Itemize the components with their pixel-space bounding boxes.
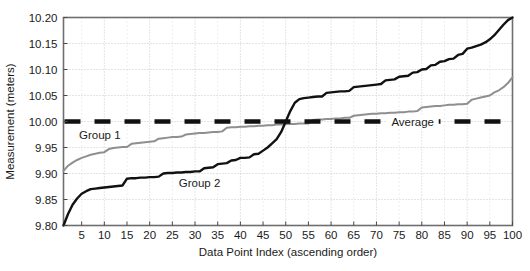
annotation-average: Average bbox=[391, 116, 434, 128]
y-tick-label: 9.80 bbox=[35, 220, 57, 232]
x-tick-label: 35 bbox=[211, 229, 224, 241]
y-tick-label: 10.00 bbox=[29, 116, 58, 128]
x-tick-label: 45 bbox=[257, 229, 270, 241]
y-axis-ticks: 9.809.859.909.9510.0010.0510.1010.1510.2… bbox=[29, 12, 68, 232]
chart-svg: 9.809.859.909.9510.0010.0510.1010.1510.2… bbox=[0, 0, 530, 271]
annotation-group-2: Group 2 bbox=[179, 177, 221, 189]
x-tick-label: 90 bbox=[461, 229, 474, 241]
x-tick-label: 75 bbox=[393, 229, 406, 241]
y-tick-label: 9.95 bbox=[35, 142, 57, 154]
y-tick-label: 10.05 bbox=[29, 90, 58, 102]
x-tick-label: 65 bbox=[347, 229, 360, 241]
y-tick-label: 9.85 bbox=[35, 194, 57, 206]
y-tick-label: 10.10 bbox=[29, 64, 58, 76]
x-tick-label: 40 bbox=[234, 229, 247, 241]
x-tick-label: 50 bbox=[279, 229, 292, 241]
y-tick-label: 10.20 bbox=[29, 12, 58, 24]
x-tick-label: 85 bbox=[438, 229, 451, 241]
x-tick-label: 60 bbox=[325, 229, 338, 241]
x-tick-label: 20 bbox=[143, 229, 156, 241]
x-tick-label: 80 bbox=[415, 229, 428, 241]
x-tick-label: 100 bbox=[503, 229, 522, 241]
figure-root: 9.809.859.909.9510.0010.0510.1010.1510.2… bbox=[0, 0, 530, 271]
x-tick-label: 70 bbox=[370, 229, 383, 241]
x-tick-label: 95 bbox=[483, 229, 496, 241]
y-axis-title: Measurement (meters) bbox=[4, 63, 16, 179]
x-tick-label: 30 bbox=[189, 229, 202, 241]
x-tick-label: 25 bbox=[166, 229, 179, 241]
y-tick-label: 9.90 bbox=[35, 168, 57, 180]
x-tick-label: 15 bbox=[121, 229, 134, 241]
y-tick-label: 10.15 bbox=[29, 38, 58, 50]
x-axis-title: Data Point Index (ascending order) bbox=[199, 246, 378, 258]
annotation-group-1: Group 1 bbox=[79, 129, 121, 141]
x-tick-label: 55 bbox=[302, 229, 315, 241]
x-tick-label: 5 bbox=[78, 229, 84, 241]
x-tick-label: 10 bbox=[98, 229, 111, 241]
